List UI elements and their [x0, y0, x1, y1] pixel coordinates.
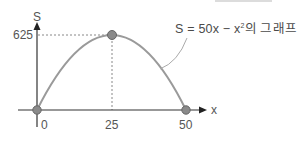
point-vertex: [108, 31, 117, 40]
parabola-graph: S x 625 0 25 50 S = 50x − x2의 그래프: [0, 0, 301, 142]
annotation-leader-line: [160, 38, 187, 69]
tick-label-0: 0: [41, 119, 48, 131]
x-axis-arrow-icon: [199, 107, 207, 114]
tick-label-50: 50: [179, 119, 192, 131]
equation-main: S = 50x − x: [175, 22, 240, 36]
y-axis-label: S: [33, 11, 41, 23]
x-axis-label: x: [211, 104, 217, 116]
equation-annotation: S = 50x − x2의 그래프: [175, 22, 297, 36]
tick-label-625: 625: [13, 29, 33, 41]
point-origin: [33, 106, 41, 114]
tick-label-25: 25: [105, 119, 118, 131]
equation-suffix: 의 그래프: [245, 22, 297, 36]
point-root: [182, 106, 190, 114]
